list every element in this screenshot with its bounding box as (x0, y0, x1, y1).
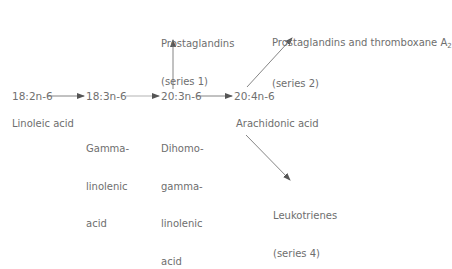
label-line: Gamma- (86, 143, 129, 156)
product-prostaglandins-thromboxane-series-2: Prostaglandins and thromboxane A2 (serie… (272, 12, 452, 103)
product-line: Prostaglandins and thromboxane A2 (272, 37, 452, 53)
node-aa-code: 20:4n-6 (234, 90, 275, 103)
label-line: linolenic (161, 218, 204, 231)
label-gamma-linolenic-acid: Gamma- linolenic acid (86, 118, 129, 243)
product-line: (series 2) (272, 78, 452, 91)
product-leukotrienes-series-4: Leukotrienes (series 4) (273, 185, 337, 269)
node-linoleic-code: 18:2n-6 (12, 90, 53, 103)
node-gla-code: 18:3n-6 (86, 90, 127, 103)
label-line: linolenic (86, 181, 129, 194)
label-line: acid (86, 218, 129, 231)
product-line: (series 4) (273, 248, 337, 261)
product-line: Prostaglandins (161, 38, 234, 51)
product-text: Prostaglandins and thromboxane A (272, 37, 447, 48)
product-line: (series 1) (161, 76, 234, 89)
label-line: acid (161, 256, 204, 269)
label-arachidonic-acid: Arachidonic acid (236, 118, 319, 131)
product-prostaglandins-series-1: Prostaglandins (series 1) (161, 13, 234, 101)
product-line: Leukotrienes (273, 210, 337, 223)
subscript: 2 (447, 42, 451, 50)
label-linoleic-acid: Linoleic acid (12, 118, 74, 131)
label-line: gamma- (161, 181, 204, 194)
label-line: Dihomo- (161, 143, 204, 156)
arrow-aa-to-lt4 (246, 135, 290, 180)
label-dihomo-gamma-linolenic-acid: Dihomo- gamma- linolenic acid (161, 118, 204, 269)
